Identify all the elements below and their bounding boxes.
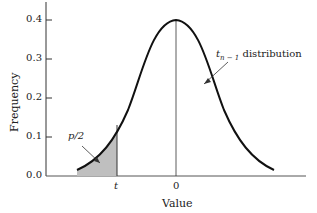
y-tick-label: 0.3 xyxy=(12,52,42,63)
x-axis-label: Value xyxy=(162,197,193,210)
x-tick-zero: 0 xyxy=(173,180,179,191)
curve-annotation: tn − 1 distribution xyxy=(216,48,302,62)
y-axis-label: Frequency xyxy=(8,73,21,133)
plot-area xyxy=(0,0,317,213)
t-distribution-curve xyxy=(77,20,274,170)
y-tick-label: 0.0 xyxy=(12,169,42,180)
y-tick-label: 0.4 xyxy=(12,13,42,24)
x-tick-t: t xyxy=(114,180,118,191)
p-half-annotation: p/2 xyxy=(68,130,84,141)
